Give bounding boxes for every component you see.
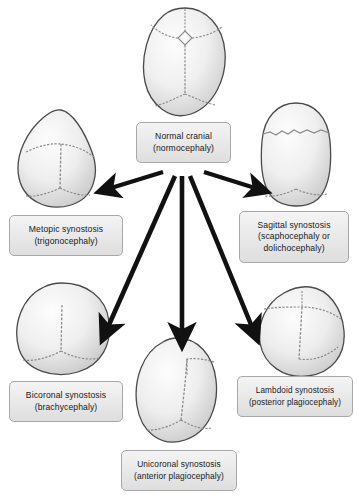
label-line: Lambdoid synostosis <box>256 385 334 396</box>
skull-metopic-synostosis <box>14 108 107 209</box>
label-sagittal-synostosis: Sagittal synostosis (scaphocephaly or do… <box>239 211 349 263</box>
label-lambdoid-synostosis: Lambdoid synostosis (posterior plagiocep… <box>237 376 353 417</box>
label-metopic-synostosis: Metopic synostosis (trigonocephaly) <box>9 215 123 256</box>
arrow-to-sagittal <box>204 172 255 188</box>
skull-normal-cranial <box>140 6 230 118</box>
label-unicoronal-synostosis: Unicoronal synostosis (anterior plagioce… <box>121 450 237 491</box>
label-line: (trigonocephaly) <box>34 236 97 247</box>
craniosynostosis-diagram: Normal cranial (normocephaly) Metopic sy… <box>0 0 358 496</box>
label-line: (posterior plagiocephaly) <box>249 397 341 408</box>
label-line: dolichocephaly) <box>263 243 324 254</box>
skull-unicoronal-synostosis <box>133 336 221 444</box>
label-line: (brachycephaly) <box>35 402 98 413</box>
label-line: (scaphocephaly or <box>258 231 330 242</box>
label-bicoronal-synostosis: Bicoronal synostosis (brachycephaly) <box>9 381 123 422</box>
label-line: (anterior plagiocephaly) <box>134 471 224 482</box>
skull-sagittal-synostosis <box>258 101 334 207</box>
label-line: Normal cranial <box>155 131 212 142</box>
skull-bicoronal-synostosis <box>14 281 114 378</box>
label-normal-cranial: Normal cranial (normocephaly) <box>136 122 231 163</box>
skull-lambdoid-synostosis <box>256 285 348 378</box>
arrow-to-metopic <box>111 172 163 188</box>
label-line: (normocephaly) <box>153 143 214 154</box>
label-line: Metopic synostosis <box>29 224 103 235</box>
label-line: Bicoronal synostosis <box>26 390 106 401</box>
label-line: Unicoronal synostosis <box>137 459 221 470</box>
label-line: Sagittal synostosis <box>257 220 330 231</box>
